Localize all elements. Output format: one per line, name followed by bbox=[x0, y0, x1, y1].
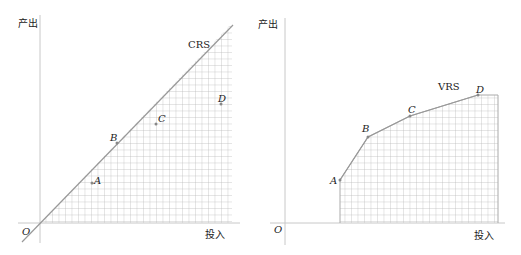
diagram-canvas: A B C D CRS 产出 投入 O A B C D VRS 产出 投入 O bbox=[0, 0, 521, 255]
y-axis-label: 产出 bbox=[18, 17, 38, 29]
origin-label: O bbox=[274, 224, 282, 235]
label-d: D bbox=[217, 93, 226, 104]
crs-panel: A B C D CRS 产出 投入 O bbox=[18, 15, 240, 243]
origin-label: O bbox=[22, 226, 30, 237]
vrs-panel: A B C D VRS 产出 投入 O bbox=[258, 18, 505, 245]
label-b: B bbox=[109, 132, 117, 143]
x-axis-label: 投入 bbox=[205, 228, 225, 240]
label-c: C bbox=[408, 104, 416, 115]
vrs-feasible-region bbox=[340, 90, 498, 224]
label-d: D bbox=[475, 84, 484, 95]
y-axis-label: 产出 bbox=[258, 18, 278, 30]
point-a bbox=[339, 179, 342, 182]
label-b: B bbox=[361, 123, 369, 134]
point-b bbox=[367, 136, 370, 139]
label-a: A bbox=[329, 175, 337, 186]
label-a: A bbox=[93, 175, 101, 186]
vrs-label: VRS bbox=[437, 81, 460, 92]
crs-label: CRS bbox=[188, 39, 210, 50]
label-c: C bbox=[158, 113, 166, 124]
x-axis-label: 投入 bbox=[474, 229, 494, 241]
